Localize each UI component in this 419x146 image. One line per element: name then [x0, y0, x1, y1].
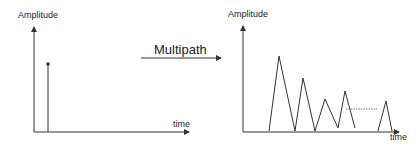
multipath-diagram [0, 0, 419, 146]
impulse-dot [46, 62, 50, 66]
multipath-label: Multipath [154, 42, 207, 57]
delayed-peak [378, 101, 392, 131]
right-y-axis-label: Amplitude [228, 9, 268, 19]
multipath-peaks [269, 56, 355, 131]
left-y-axis-label: Amplitude [18, 10, 58, 20]
left-x-axis-label: time [173, 119, 190, 129]
right-x-axis-label: time [390, 132, 407, 142]
